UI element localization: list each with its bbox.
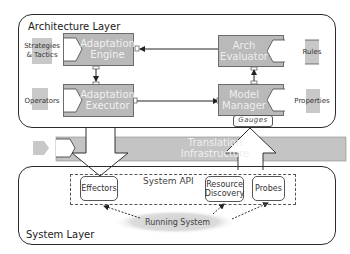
arch-evaluator[interactable]: Arch Evaluator — [218, 35, 284, 67]
properties-label: Properties — [290, 97, 334, 106]
translation-input-icon — [33, 141, 49, 155]
adaptation-executor-line1: Adaptation — [80, 89, 135, 100]
rules-label: Rules — [294, 48, 330, 57]
gauges-label: Gauges — [233, 115, 273, 127]
resource-discovery-box[interactable]: Resource Discovery — [205, 176, 244, 202]
operators-label: Operators — [14, 97, 70, 106]
strategies-tactics-label: Strategies & Tactics — [14, 42, 70, 60]
model-manager-line2: Manager — [219, 100, 269, 111]
probes-box[interactable]: Probes — [252, 176, 285, 201]
arch-evaluator-line2: Evaluator — [219, 51, 269, 62]
architecture-layer-title: Architecture Layer — [28, 21, 120, 32]
translation-infrastructure-label: Translation Infrastructure — [160, 137, 270, 159]
adaptation-executor-line2: Executor — [80, 100, 135, 111]
adaptation-engine-line1: Adaptation — [80, 38, 135, 49]
adaptation-engine-line2: Engine — [80, 49, 135, 60]
model-manager[interactable]: Model Manager — [218, 84, 284, 116]
adaptation-engine[interactable]: Adaptation Engine — [63, 33, 134, 66]
system-layer-title: System Layer — [26, 229, 94, 240]
adaptation-executor[interactable]: Adaptation Executor — [63, 84, 134, 117]
effectors-box[interactable]: Effectors — [80, 176, 118, 201]
system-api-label: System API — [143, 176, 194, 186]
arch-evaluator-line1: Arch — [219, 40, 269, 51]
running-system-label: Running System — [145, 218, 210, 227]
model-manager-line1: Model — [219, 89, 269, 100]
